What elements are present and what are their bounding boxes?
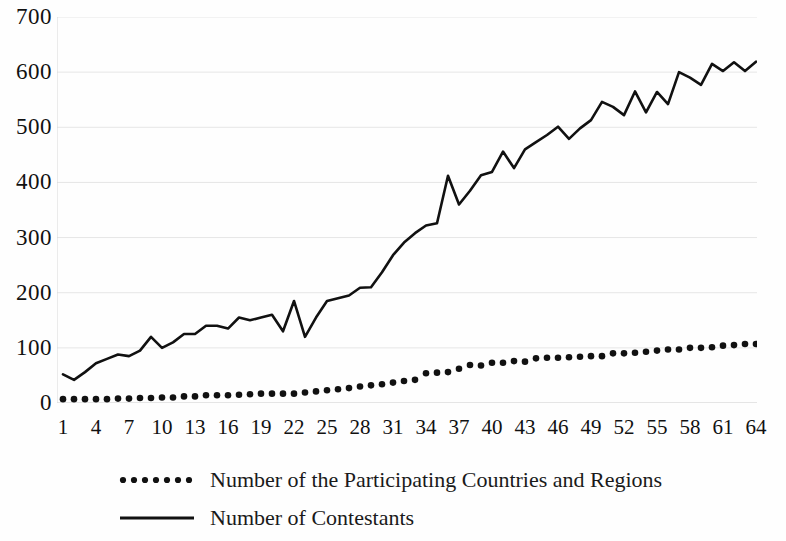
x-axis-tick-label: 7 <box>124 415 135 439</box>
x-axis-tick-label: 49 <box>581 415 602 439</box>
x-axis-tick-label: 64 <box>746 415 767 439</box>
x-axis-tick-label: 52 <box>614 415 635 439</box>
legend-item-contestants: Number of Contestants <box>118 503 414 533</box>
x-axis-tick-label: 46 <box>548 415 569 439</box>
y-axis-labels: 0100200300400500600700 <box>0 0 52 420</box>
x-axis-tick-label: 34 <box>416 415 437 439</box>
x-axis-tick-label: 28 <box>350 415 371 439</box>
legend-item-participating-countries: Number of the Participating Countries an… <box>118 465 662 495</box>
gridlines <box>57 17 757 403</box>
axis-lines <box>57 17 757 403</box>
x-axis-tick-label: 55 <box>647 415 668 439</box>
x-axis-labels: 1471013161922252831343740434649525558616… <box>57 415 761 445</box>
x-axis-tick-label: 1 <box>58 415 69 439</box>
y-axis-tick-label: 500 <box>4 115 52 138</box>
legend-label-contestants: Number of Contestants <box>210 506 414 530</box>
x-axis-tick-label: 16 <box>218 415 239 439</box>
x-axis-tick-label: 58 <box>680 415 701 439</box>
chart-canvas <box>57 17 757 403</box>
chart-legend: Number of the Participating Countries an… <box>0 462 786 540</box>
series-number-of-contestants <box>63 62 756 380</box>
x-axis-tick-label: 10 <box>152 415 173 439</box>
y-axis-tick-label: 700 <box>4 5 52 28</box>
x-axis-tick-label: 43 <box>515 415 536 439</box>
chart-figure: 0100200300400500600700 14710131619222528… <box>0 0 786 541</box>
x-axis-tick-label: 31 <box>383 415 404 439</box>
plot-area <box>57 17 757 403</box>
x-axis-tick-label: 13 <box>185 415 206 439</box>
y-axis-tick-label: 200 <box>4 281 52 304</box>
x-axis-tick-label: 25 <box>317 415 338 439</box>
y-axis-tick-label: 400 <box>4 170 52 193</box>
y-axis-tick-label: 100 <box>4 336 52 359</box>
series-number-of-participating-countries-and-regions <box>60 341 757 403</box>
x-axis-tick-label: 37 <box>449 415 470 439</box>
x-axis-tick-label: 19 <box>251 415 272 439</box>
y-axis-tick-label: 300 <box>4 226 52 249</box>
x-axis-tick-label: 4 <box>91 415 102 439</box>
dotted-line-key-icon <box>118 471 200 489</box>
y-axis-tick-label: 600 <box>4 60 52 83</box>
x-axis-tick-label: 40 <box>482 415 503 439</box>
x-axis-tick-label: 22 <box>284 415 305 439</box>
x-axis-tick-label: 61 <box>713 415 734 439</box>
legend-label-participating-countries: Number of the Participating Countries an… <box>210 468 662 492</box>
y-axis-tick-label: 0 <box>4 391 52 414</box>
solid-line-key-icon <box>118 509 200 527</box>
